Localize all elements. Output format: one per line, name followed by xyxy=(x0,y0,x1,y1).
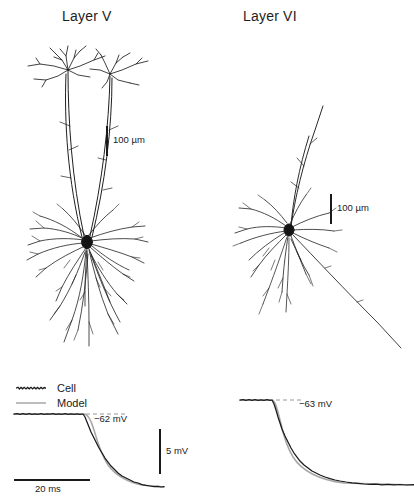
figure-canvas: Layer V Layer VI xyxy=(0,0,414,501)
panel-title-layer-vi: Layer VI xyxy=(243,8,297,24)
panel-title-layer-v: Layer V xyxy=(62,8,112,24)
baseline-voltage-label-layer-vi: −63 mV xyxy=(299,398,332,409)
legend-item-cell: Cell xyxy=(16,380,87,395)
scalebar-label: 20 ms xyxy=(35,483,61,494)
neuron-reconstruction-layer-v xyxy=(6,30,206,360)
cell-curve-layer-v xyxy=(14,414,164,487)
legend-swatch-cell xyxy=(16,383,46,393)
scalebar-label: 100 µm xyxy=(113,134,145,145)
scalebar-line xyxy=(14,479,90,481)
scalebar-label: 5 mV xyxy=(166,445,188,456)
baseline-voltage-label-layer-v: −62 mV xyxy=(94,413,127,424)
neuron-reconstruction-layer-vi xyxy=(205,100,410,360)
model-curve-layer-vi xyxy=(240,400,414,485)
morphology-layer-vi xyxy=(205,100,410,360)
morphology-layer-v xyxy=(6,30,206,360)
scalebar-line xyxy=(106,126,108,156)
scalebar-line xyxy=(330,194,332,224)
scalebar-label: 100 µm xyxy=(337,202,369,213)
cell-curve-layer-vi xyxy=(240,400,414,485)
scalebar-line xyxy=(159,429,161,474)
model-curve-layer-v xyxy=(14,414,164,487)
legend-label-cell: Cell xyxy=(57,382,76,394)
